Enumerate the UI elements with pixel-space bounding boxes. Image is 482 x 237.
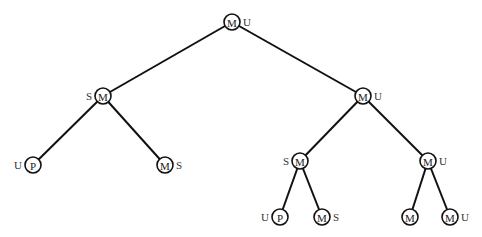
tree-node: MU xyxy=(442,209,469,225)
node-side-label: U xyxy=(374,90,382,102)
node-side-label: U xyxy=(14,159,22,171)
tree-diagram: MUMSMUPUMSMSMUPUMSMMU xyxy=(0,0,482,237)
tree-edge xyxy=(280,161,300,217)
node-label: M xyxy=(227,17,237,29)
tree-edge xyxy=(103,96,165,165)
node-label: M xyxy=(445,212,455,224)
node-side-label: U xyxy=(461,211,469,223)
node-side-label: S xyxy=(176,159,182,171)
node-side-label: U xyxy=(243,16,251,28)
node-label: P xyxy=(30,160,36,172)
tree-edge xyxy=(410,161,428,217)
tree-edge xyxy=(232,22,363,96)
tree-node: PU xyxy=(261,209,288,225)
node-side-label: S xyxy=(283,155,289,167)
tree-edge xyxy=(33,96,103,165)
node-label: M xyxy=(160,160,170,172)
tree-node: M xyxy=(402,209,418,225)
tree-edge xyxy=(363,96,428,161)
tree-edge xyxy=(428,161,450,217)
node-side-label: S xyxy=(86,90,92,102)
node-label: M xyxy=(295,156,305,168)
tree-node: MS xyxy=(86,88,111,104)
tree-edges xyxy=(33,22,450,217)
node-label: M xyxy=(358,91,368,103)
tree-edge xyxy=(300,96,363,161)
node-label: M xyxy=(405,212,415,224)
tree-node: PU xyxy=(14,157,41,173)
tree-node: MU xyxy=(224,14,251,30)
node-side-label: S xyxy=(333,211,339,223)
tree-nodes: MUMSMUPUMSMSMUPUMSMMU xyxy=(14,14,469,225)
tree-node: MU xyxy=(355,88,382,104)
tree-edge xyxy=(300,161,322,217)
tree-edge xyxy=(103,22,232,96)
node-label: P xyxy=(277,212,283,224)
tree-node: MS xyxy=(314,209,339,225)
tree-node: MS xyxy=(157,157,182,173)
node-side-label: U xyxy=(439,155,447,167)
node-label: M xyxy=(317,212,327,224)
tree-node: MS xyxy=(283,153,308,169)
node-label: M xyxy=(423,156,433,168)
tree-node: MU xyxy=(420,153,447,169)
node-side-label: U xyxy=(261,211,269,223)
node-label: M xyxy=(98,91,108,103)
